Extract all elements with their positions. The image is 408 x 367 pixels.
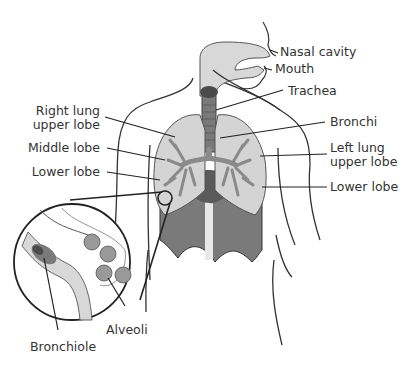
label-left-lung-line2: upper lobe (330, 155, 397, 169)
label-right-lung-line1: Right lung (25, 104, 100, 118)
label-right-lung-upper-lobe: Right lung upper lobe (25, 104, 100, 132)
label-bronchiole: Bronchiole (30, 340, 96, 354)
label-alveoli: Alveoli (106, 323, 148, 337)
label-right-lung-line2: upper lobe (25, 118, 100, 132)
label-lower-lobe-left: Lower lobe (20, 165, 100, 179)
label-middle-lobe: Middle lobe (20, 141, 100, 155)
label-trachea: Trachea (288, 84, 337, 98)
label-mouth: Mouth (275, 62, 314, 76)
label-bronchi: Bronchi (330, 115, 377, 129)
label-nasal-cavity: Nasal cavity (280, 45, 356, 59)
label-left-lung-line1: Left lung (330, 141, 397, 155)
label-left-lung-upper-lobe: Left lung upper lobe (330, 141, 397, 169)
label-lower-lobe-right: Lower lobe (330, 180, 398, 194)
